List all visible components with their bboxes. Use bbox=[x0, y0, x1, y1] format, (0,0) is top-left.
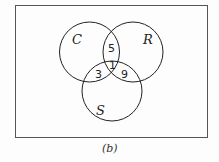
region-c-s: 3 bbox=[95, 68, 102, 81]
region-r-s: 9 bbox=[121, 68, 128, 81]
set-label-c: C bbox=[72, 32, 82, 47]
region-c-r: 5 bbox=[108, 42, 115, 55]
region-c-r-s: 1 bbox=[109, 59, 116, 72]
set-label-r: R bbox=[142, 32, 153, 47]
venn-diagram: C R S 5 3 9 1 (b) bbox=[0, 0, 219, 162]
set-label-s: S bbox=[96, 103, 105, 118]
figure-caption: (b) bbox=[102, 142, 118, 155]
